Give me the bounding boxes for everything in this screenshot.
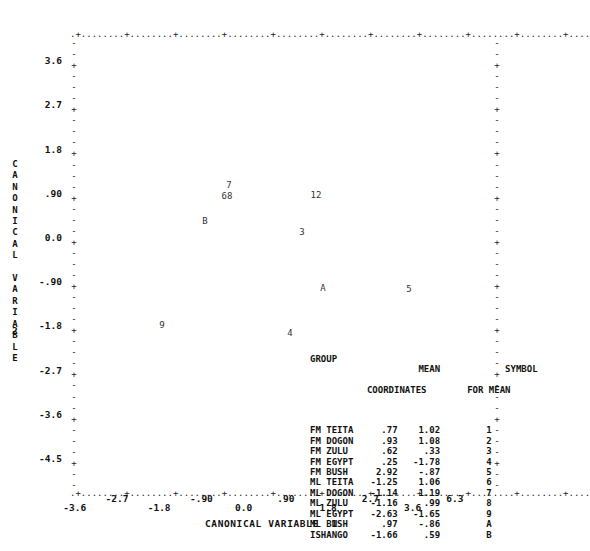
legend-group-name: ML DOGON: [310, 488, 353, 498]
legend-header-symbol-line2: FOR MEAN: [440, 385, 538, 395]
legend-group-name: FM TEITA: [310, 425, 353, 435]
legend-mean-y: .99: [398, 498, 440, 508]
legend-header-symbol-line1: SYMBOL: [505, 364, 538, 374]
legend-mean-x: .93: [353, 436, 397, 446]
legend-header-row: GROUP MEAN COORDINATES SYMBOL FOR MEAN: [310, 354, 538, 425]
legend-table: GROUP MEAN COORDINATES SYMBOL FOR MEAN F…: [310, 354, 538, 540]
legend-mean-x: .77: [353, 425, 397, 435]
y-tick-label-8: -3.6: [28, 410, 62, 420]
legend-header-symbol: SYMBOL FOR MEAN: [440, 354, 538, 425]
legend-group-name: FM DOGON: [310, 436, 353, 446]
legend-row: ML BUSH.97-.86A: [310, 519, 538, 529]
data-point-9: 9: [157, 321, 167, 330]
legend-row: FM TEITA.771.021: [310, 425, 538, 435]
legend-mean-y: -1.78: [398, 457, 440, 467]
legend-mean-x: .25: [353, 457, 397, 467]
legend-mean-y: .59: [398, 530, 440, 540]
y-tick-label-5: -.90: [28, 277, 62, 287]
legend-group-name: ML TEITA: [310, 477, 353, 487]
y-tick-label-7: -2.7: [28, 366, 62, 376]
legend-mean-y: 1.19: [398, 488, 440, 498]
data-point-3: 3: [297, 228, 307, 237]
legend-group-name: FM BUSH: [310, 467, 353, 477]
legend-symbol: 1: [440, 425, 538, 435]
data-point-12: 12: [308, 191, 324, 200]
legend-mean-x: -1.66: [353, 530, 397, 540]
legend-row: ISHANGO-1.66.59B: [310, 530, 538, 540]
legend-mean-y: -1.65: [398, 509, 440, 519]
legend-mean-y: 1.02: [398, 425, 440, 435]
legend-symbol: A: [440, 519, 538, 529]
legend-symbol: 5: [440, 467, 538, 477]
y-tick-label-6: -1.8: [28, 321, 62, 331]
legend-body: FM TEITA.771.021FM DOGON.931.082FM ZULU.…: [310, 425, 538, 539]
legend-mean-x: 2.92: [353, 467, 397, 477]
legend-mean-y: .33: [398, 446, 440, 456]
legend-row: ML DOGON-1.141.197: [310, 488, 538, 498]
legend-grid: GROUP MEAN COORDINATES SYMBOL FOR MEAN F…: [310, 354, 538, 540]
legend-mean-x: -1.16: [353, 498, 397, 508]
legend-group-name: FM ZULU: [310, 446, 353, 456]
data-point-7: 7: [224, 181, 234, 190]
legend-mean-x: -2.63: [353, 509, 397, 519]
x-tick-label-1: -2.7: [100, 494, 134, 504]
x-tick-label-3: -.90: [184, 494, 218, 504]
legend-header-group: GROUP: [310, 354, 353, 425]
data-point-A: A: [318, 284, 328, 293]
legend-mean-x: .97: [353, 519, 397, 529]
legend-row: FM DOGON.931.082: [310, 436, 538, 446]
y-axis-title-number: 2: [12, 325, 18, 336]
y-tick-label-0: 3.6: [28, 56, 62, 66]
plot-frame-top: .+........+........+........+........+..…: [70, 30, 590, 39]
legend-row: ML EGYPT-2.63-1.659: [310, 509, 538, 519]
legend-header-mean: MEAN COORDINATES: [353, 354, 440, 425]
legend-group-name: FM EGYPT: [310, 457, 353, 467]
legend-row: ML TEITA-1.251.066: [310, 477, 538, 487]
plot-frame-left: - - + - - - + - - - + - - - + - - - + - …: [69, 38, 79, 491]
y-tick-label-3: .90: [28, 189, 62, 199]
x-tick-label-5: .90: [269, 494, 303, 504]
data-point-5: 5: [404, 285, 414, 294]
legend-symbol: 3: [440, 446, 538, 456]
legend-header-mean-line1: MEAN: [418, 364, 440, 374]
legend-group-name: ML ZULU: [310, 498, 353, 508]
x-tick-label-0: -3.6: [58, 503, 92, 513]
legend-symbol: 6: [440, 477, 538, 487]
legend-group-name: ML BUSH: [310, 519, 353, 529]
legend-mean-x: -1.14: [353, 488, 397, 498]
legend-mean-y: 1.06: [398, 477, 440, 487]
y-tick-label-4: 0.0: [28, 233, 62, 243]
legend-symbol: 2: [440, 436, 538, 446]
legend-mean-y: -.86: [398, 519, 440, 529]
legend-mean-x: .62: [353, 446, 397, 456]
x-tick-label-2: -1.8: [142, 503, 176, 513]
legend-symbol: 7: [440, 488, 538, 498]
legend-group-name: ISHANGO: [310, 530, 353, 540]
x-tick-label-4: 0.0: [227, 503, 261, 513]
legend-header-mean-line2: COORDINATES: [353, 385, 440, 395]
legend-row: FM ZULU.62.333: [310, 446, 538, 456]
legend-mean-y: 1.08: [398, 436, 440, 446]
legend-group-name: ML EGYPT: [310, 509, 353, 519]
data-point-4: 4: [285, 329, 295, 338]
data-point-68: 68: [219, 192, 235, 201]
data-point-B: B: [200, 217, 210, 226]
legend-symbol: B: [440, 530, 538, 540]
legend-symbol: 9: [440, 509, 538, 519]
y-tick-label-9: -4.5: [28, 454, 62, 464]
legend-mean-x: -1.25: [353, 477, 397, 487]
legend-symbol: 8: [440, 498, 538, 508]
legend-symbol: 4: [440, 457, 538, 467]
y-tick-label-1: 2.7: [28, 100, 62, 110]
legend-row: ML ZULU-1.16.998: [310, 498, 538, 508]
legend-row: FM BUSH2.92-.875: [310, 467, 538, 477]
legend-row: FM EGYPT.25-1.784: [310, 457, 538, 467]
legend-mean-y: -.87: [398, 467, 440, 477]
y-tick-label-2: 1.8: [28, 145, 62, 155]
